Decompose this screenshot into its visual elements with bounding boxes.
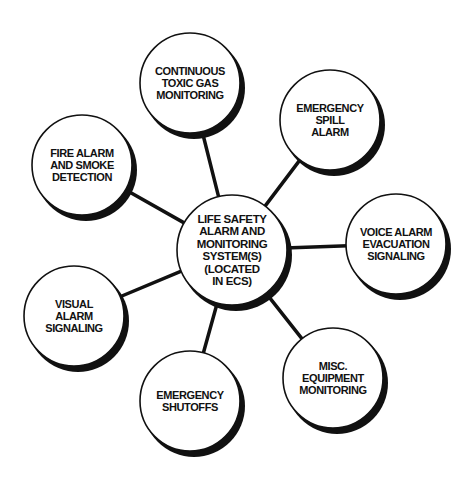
node-label-line: SIGNALING xyxy=(45,322,103,334)
node-label-line: ALARM xyxy=(311,126,349,138)
node-label-line: TOXIC GAS xyxy=(162,77,219,89)
node-label-line: FIRE ALARM xyxy=(50,147,114,159)
connector-emergency-spill xyxy=(264,158,301,207)
node-label-line: EMERGENCY xyxy=(296,102,364,114)
node-label-line: EQUIPMENT xyxy=(302,372,364,384)
connector-continuous-toxic-gas xyxy=(202,130,219,199)
life-safety-diagram: CONTINUOUSTOXIC GASMONITORINGEMERGENCYSP… xyxy=(0,0,472,483)
node-label-line: MONITORING xyxy=(299,384,366,396)
node-label-line: AND SMOKE xyxy=(50,159,114,171)
node-label-line: CONTINUOUS xyxy=(155,65,225,77)
node-label-line: IN ECS) xyxy=(212,275,252,287)
node-continuous-toxic-gas: CONTINUOUSTOXIC GASMONITORING xyxy=(140,33,245,139)
node-label-line: MISC. xyxy=(319,360,348,372)
node-label-line: DETECTION xyxy=(52,171,112,183)
node-label-line: SYSTEM(S) xyxy=(202,250,262,262)
node-label-line: LIFE SAFETY xyxy=(197,213,267,225)
node-label-line: MONITORING xyxy=(156,89,223,101)
node-label-line: ALARM AND xyxy=(199,225,265,237)
connector-voice-alarm xyxy=(285,246,348,248)
node-label-line: VISUAL xyxy=(55,298,94,310)
connector-emergency-shutoffs xyxy=(203,301,218,355)
node-label-line: ALARM xyxy=(55,310,93,322)
node-emergency-spill: EMERGENCYSPILLALARM xyxy=(280,70,385,176)
node-label-line: SHUTOFFS xyxy=(162,401,218,413)
connector-fire-alarm xyxy=(124,189,186,224)
node-label-line: VOICE ALARM xyxy=(360,226,432,238)
node-emergency-shutoffs: EMERGENCYSHUTOFFS xyxy=(140,351,245,457)
node-misc-equipment: MISC.EQUIPMENTMONITORING xyxy=(283,328,388,434)
node-label-line: EVACUATION xyxy=(362,238,430,250)
node-voice-alarm: VOICE ALARMEVACUATIONSIGNALING xyxy=(346,194,451,300)
node-label-line: SPILL xyxy=(315,114,345,126)
node-fire-alarm: FIRE ALARMAND SMOKEDETECTION xyxy=(32,115,137,221)
node-visual-alarm: VISUALALARMSIGNALING xyxy=(24,266,129,372)
node-label-line: EMERGENCY xyxy=(156,389,224,401)
node-label-line: (LOCATED xyxy=(204,263,259,275)
node-life-safety: LIFE SAFETYALARM ANDMONITORINGSYSTEM(S)(… xyxy=(177,195,292,311)
node-label-line: SIGNALING xyxy=(367,250,425,262)
bubbles: CONTINUOUSTOXIC GASMONITORINGEMERGENCYSP… xyxy=(24,33,451,457)
connector-visual-alarm xyxy=(118,270,183,297)
node-label-line: MONITORING xyxy=(197,238,268,250)
